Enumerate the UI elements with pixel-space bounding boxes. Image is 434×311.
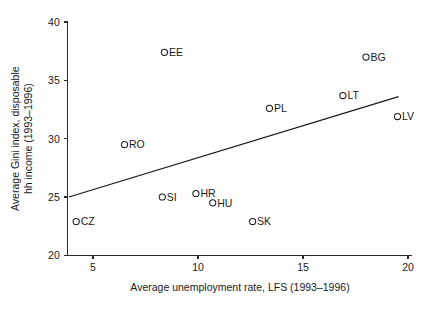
data-point: RO: [121, 138, 144, 150]
point-label-lt: LT: [347, 89, 359, 101]
point-label-ee: EE: [169, 46, 183, 58]
point-label-cz: CZ: [81, 215, 96, 227]
fit-line-segment: [69, 97, 399, 197]
x-tick-label: 15: [297, 261, 309, 273]
point-marker-bg: [363, 54, 369, 60]
y-tick-group: 2025303540: [48, 16, 68, 261]
x-tick-group: 5101520: [90, 255, 414, 273]
x-tick-label: 20: [402, 261, 414, 273]
point-label-ro: RO: [129, 138, 145, 150]
y-axis-title-line-1: Average Gini index, disposable: [9, 66, 21, 211]
regression-line: [69, 97, 399, 197]
data-point: CZ: [73, 215, 95, 227]
point-marker-cz: [73, 218, 79, 224]
point-marker-lv: [394, 113, 400, 119]
point-marker-hr: [193, 190, 199, 196]
data-points: CZROSIEEHRHUSKPLLTBGLV: [73, 46, 414, 227]
data-point: BG: [363, 51, 386, 63]
point-marker-si: [159, 194, 165, 200]
point-marker-ro: [121, 141, 127, 147]
data-point: HR: [193, 187, 216, 199]
point-marker-sk: [250, 218, 256, 224]
x-tick-label: 5: [90, 261, 96, 273]
data-point: SI: [159, 191, 177, 203]
y-axis: 2025303540: [48, 16, 68, 261]
point-label-pl: PL: [274, 102, 287, 114]
y-tick-label: 25: [48, 191, 60, 203]
point-label-sk: SK: [257, 215, 271, 227]
y-tick-label: 40: [48, 16, 60, 28]
data-point: LV: [394, 110, 414, 122]
point-marker-ee: [161, 49, 167, 55]
x-tick-label: 10: [192, 261, 204, 273]
point-label-si: SI: [167, 191, 177, 203]
data-point: PL: [266, 102, 287, 114]
data-point: EE: [161, 46, 183, 58]
point-marker-pl: [266, 105, 272, 111]
point-label-bg: BG: [371, 51, 386, 63]
point-marker-hu: [210, 200, 216, 206]
point-label-hu: HU: [217, 197, 232, 209]
x-axis-title: Average unemployment rate, LFS (1993–199…: [130, 281, 349, 293]
point-marker-lt: [340, 92, 346, 98]
y-tick-label: 35: [48, 74, 60, 86]
scatter-plot-figure: 2025303540 5101520 CZROSIEEHRHUSKPLLTBGL…: [0, 0, 434, 311]
x-axis: 5101520: [68, 255, 414, 273]
axis-titles: Average unemployment rate, LFS (1993–199…: [9, 66, 350, 293]
y-axis-title-line-2: hh income (1993–1996): [22, 83, 34, 194]
data-point: LT: [340, 89, 360, 101]
y-tick-label: 20: [48, 249, 60, 261]
plot-canvas: 2025303540 5101520 CZROSIEEHRHUSKPLLTBGL…: [0, 0, 434, 311]
data-point: SK: [250, 215, 272, 227]
point-label-lv: LV: [402, 110, 414, 122]
y-tick-label: 30: [48, 133, 60, 145]
point-label-hr: HR: [200, 187, 216, 199]
